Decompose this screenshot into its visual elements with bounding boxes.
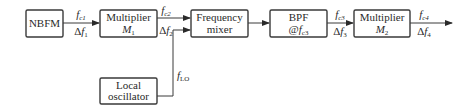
block-diagram: NBFM Multiplier M1 Frequency mixer BPF @… — [0, 0, 463, 110]
block-local-oscillator-label-2: oscillator — [108, 90, 149, 102]
block-frequency-mixer-label-2: mixer — [207, 23, 233, 35]
signal-fc4: fc4 — [419, 8, 429, 22]
signal-fc2: fc2 — [161, 4, 171, 18]
block-local-oscillator: Local oscillator — [100, 78, 157, 104]
block-frequency-mixer-label-1: Frequency — [196, 11, 243, 23]
block-nbfm: NBFM — [26, 10, 63, 37]
signal-fc1: fc1 — [76, 8, 86, 22]
signal-delta-f4: Δf4 — [417, 25, 431, 39]
signal-delta-f1: Δf1 — [74, 25, 88, 39]
block-multiplier-1-label: Multiplier — [106, 11, 151, 23]
signal-label-2: fc2 Δf2 — [159, 4, 173, 38]
signal-label-lo: fLO — [177, 69, 189, 83]
block-nbfm-label: NBFM — [29, 17, 60, 29]
block-multiplier-2-label: Multiplier — [360, 11, 405, 23]
block-multiplier-2: Multiplier M2 — [354, 10, 410, 37]
block-bpf-label: BPF — [289, 11, 309, 23]
signal-delta-f3: Δf3 — [333, 25, 347, 39]
wire-lo-mixer — [157, 30, 190, 96]
signal-fc3: fc3 — [335, 8, 345, 22]
block-multiplier-1: Multiplier M1 — [100, 10, 157, 37]
signal-flo: fLO — [177, 69, 189, 83]
signal-delta-f2: Δf2 — [159, 24, 173, 38]
block-frequency-mixer: Frequency mixer — [191, 10, 248, 37]
block-bpf: BPF @fc3 — [270, 10, 327, 37]
